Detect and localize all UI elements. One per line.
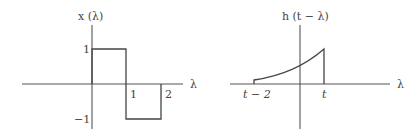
tick-t-minus-2: t − 2 — [243, 88, 271, 101]
h-t-minus-lambda-curve — [254, 49, 324, 84]
tick-x-2: 2 — [165, 88, 172, 101]
right-plot-h-t-minus-lambda: h (t − λ) λ t − 2 t — [230, 10, 404, 129]
tick-t: t — [322, 88, 327, 101]
convolution-diagram: x (λ) λ 1 −1 1 2 h (t − λ) λ t − 2 t — [0, 0, 420, 136]
tick-y-neg1: −1 — [74, 113, 90, 126]
tick-x-1: 1 — [130, 88, 137, 101]
left-plot-x-lambda: x (λ) λ 1 −1 1 2 — [22, 10, 197, 129]
right-axis-label: λ — [397, 78, 404, 91]
right-title: h (t − λ) — [282, 10, 329, 23]
left-axis-label: λ — [190, 78, 197, 91]
left-title: x (λ) — [78, 10, 103, 23]
tick-y-1: 1 — [83, 43, 90, 56]
